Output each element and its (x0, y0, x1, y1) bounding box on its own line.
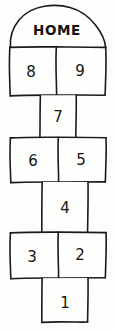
row-6-5: 6 5 (10, 137, 106, 182)
cell-7: 7 (40, 95, 76, 138)
row-8-9-top-edge (10, 47, 106, 48)
cell-4: 4 (42, 182, 88, 233)
cell-2-label: 2 (75, 246, 85, 264)
row-8-9-divider (56, 47, 57, 95)
row-3-2: 3 2 (10, 232, 106, 279)
home-label: HOME (33, 22, 81, 38)
row-6-5-left-edge (10, 138, 11, 183)
cell-5-label: 5 (76, 151, 86, 169)
cell-1: 1 (42, 278, 88, 323)
hopscotch-svg: HOME 8 9 7 (0, 0, 116, 330)
cell-4-label: 4 (60, 199, 70, 217)
row-3-2-divider (58, 232, 59, 278)
row-6-5-divider (58, 137, 59, 182)
row-6-5-right-edge (105, 138, 106, 182)
cell-9-label: 9 (75, 62, 85, 80)
cell-1-bottom-edge (42, 322, 88, 323)
cell-1-label: 1 (60, 294, 70, 312)
row-8-9-right-edge (105, 47, 106, 95)
row-3-2-left-edge (10, 233, 11, 279)
cell-home: HOME (10, 5, 105, 48)
cell-6-label: 6 (28, 152, 38, 170)
row-8-9-left-edge (9, 47, 10, 96)
cell-1-right-edge (88, 278, 89, 322)
row-8-9: 8 9 (9, 47, 106, 96)
hopscotch-drawing: HOME 8 9 7 (0, 0, 116, 330)
cell-7-right-edge (76, 95, 77, 137)
cell-8-label: 8 (26, 63, 36, 81)
row-3-2-right-edge (105, 233, 106, 278)
cell-7-label: 7 (53, 108, 63, 126)
cell-4-right-edge (88, 182, 89, 232)
cell-3-label: 3 (27, 248, 37, 266)
